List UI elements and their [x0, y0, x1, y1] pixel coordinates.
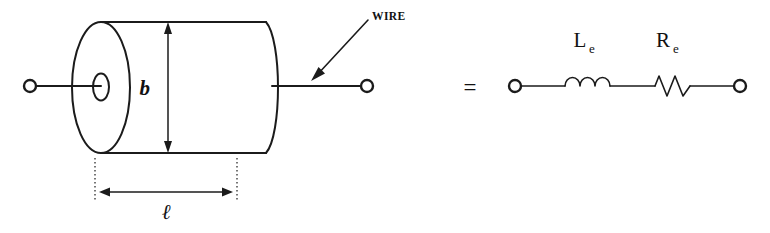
dimension-l-arrowhead-left [99, 188, 110, 197]
cylinder-right-endcap [266, 22, 278, 153]
cylinder-left-face-ellipse [72, 22, 130, 153]
dimension-b-arrowhead-bottom [164, 141, 172, 153]
dimension-b: b [140, 22, 173, 153]
circuit-left-terminal-icon [509, 80, 521, 92]
coil-equivalent-circuit-figure: b ℓ WIRE = [0, 0, 770, 233]
circuit-diagram: L e R e [509, 28, 746, 96]
coil-left-terminal-icon [24, 80, 36, 92]
dimension-l-label: ℓ [162, 200, 171, 224]
resistor-zigzag-icon [655, 76, 690, 96]
wire-callout-label: WIRE [372, 10, 406, 22]
dimension-b-label: b [140, 76, 151, 100]
inductor-label-subscript: e [589, 41, 595, 56]
resistor-label-subscript: e [673, 41, 679, 56]
coil-diagram: b ℓ WIRE [24, 10, 406, 224]
wire-callout: WIRE [311, 10, 406, 81]
coil-right-terminal-icon [361, 80, 373, 92]
inductor-coil-icon [565, 78, 610, 87]
dimension-l: ℓ [95, 158, 237, 224]
resistor-label-base: R [656, 28, 670, 52]
inductor-symbol: L e [565, 28, 610, 86]
circuit-right-terminal-icon [734, 80, 746, 92]
inductor-label-base: L [574, 28, 587, 52]
wire-callout-leader-line [317, 20, 368, 75]
dimension-b-arrowhead-top [164, 22, 172, 34]
equivalence-equals-sign: = [464, 75, 477, 100]
dimension-l-arrowhead-right [222, 188, 233, 197]
figure-root: b ℓ WIRE = [0, 0, 770, 233]
resistor-symbol: R e [655, 28, 690, 96]
